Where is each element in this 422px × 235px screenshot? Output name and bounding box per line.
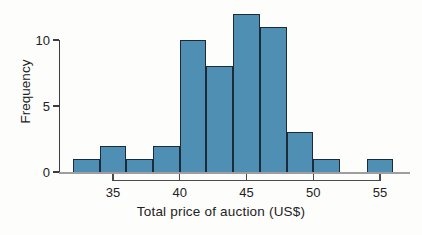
x-tick-label: 35 xyxy=(98,186,128,199)
histogram-bar xyxy=(260,27,287,172)
histogram-bar xyxy=(73,159,100,172)
histogram-bar xyxy=(100,146,127,172)
y-tick-mark xyxy=(53,39,59,40)
x-axis-title: Total price of auction (US$) xyxy=(111,204,331,219)
x-tick-mark xyxy=(379,174,380,181)
histogram-figure: Frequency 0510 3540455055 Total price of… xyxy=(0,0,422,235)
y-tick-label: 5 xyxy=(24,100,50,113)
histogram-bar xyxy=(367,159,394,172)
y-tick-label: 10 xyxy=(24,34,50,47)
x-tick-mark xyxy=(112,174,113,181)
y-tick-label: 0 xyxy=(24,166,50,179)
x-tick-label: 50 xyxy=(298,186,328,199)
x-tick-mark xyxy=(313,174,314,181)
x-tick-label: 45 xyxy=(232,186,262,199)
histogram-bar xyxy=(287,132,314,172)
y-axis-title: Frequency xyxy=(18,36,33,148)
x-tick-mark xyxy=(179,174,180,181)
y-tick-mark xyxy=(53,105,59,106)
histogram-bar xyxy=(180,40,207,172)
histogram-bar xyxy=(126,159,153,172)
histogram-bar xyxy=(206,66,233,172)
x-tick-mark xyxy=(246,174,247,181)
histogram-bar xyxy=(313,159,340,172)
histogram-bar xyxy=(233,14,260,172)
x-tick-label: 40 xyxy=(165,186,195,199)
x-tick-label: 55 xyxy=(365,186,395,199)
histogram-bar xyxy=(153,146,180,172)
